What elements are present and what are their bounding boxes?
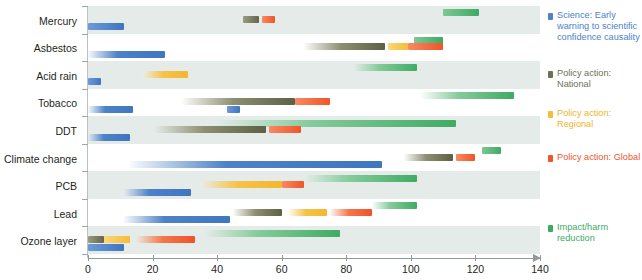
legend-swatch-regional-icon (548, 111, 553, 118)
bar-science (88, 78, 101, 85)
legend-swatch-science-icon (548, 13, 553, 20)
y-label-ddt: DDT (0, 125, 83, 137)
x-axis-tick-label: 120 (458, 263, 492, 275)
y-label-mercury: Mercury (0, 15, 83, 27)
x-axis-tick-label: 80 (329, 263, 363, 275)
x-axis-tick (475, 255, 476, 261)
bar-national (404, 154, 452, 161)
x-axis-tick (346, 255, 347, 261)
legend-item-regional[interactable]: Policy action: Regional (548, 108, 642, 130)
legend-swatch-impact-icon (548, 225, 553, 232)
legend-label-regional: Policy action: Regional (557, 108, 642, 130)
bar-global (408, 43, 444, 50)
bar-impact (353, 64, 418, 71)
y-label-lead: Lead (0, 208, 83, 220)
bar-national (233, 209, 281, 216)
bar-global (136, 236, 194, 243)
bar-science (124, 189, 192, 196)
bar-science (88, 51, 165, 58)
bar-national (243, 16, 259, 23)
legend-label-national: Policy action: National (557, 68, 642, 90)
x-axis-tick-label: 100 (394, 263, 428, 275)
x-axis-tick-label: 20 (136, 263, 170, 275)
bar-global (282, 181, 305, 188)
y-label-tobacco: Tobacco (0, 97, 83, 109)
y-label-pcb: PCB (0, 180, 83, 192)
legend-label-global: Policy action: Global (557, 152, 640, 163)
x-axis-line (88, 258, 540, 259)
plot-area (88, 6, 540, 254)
bar-impact (204, 230, 340, 237)
x-axis-tick-label: 60 (265, 263, 299, 275)
bar-global (295, 98, 331, 105)
bar-national (304, 43, 385, 50)
x-axis-tick-label: 40 (200, 263, 234, 275)
bar-science (130, 161, 382, 168)
x-axis-tick-label: 0 (71, 263, 105, 275)
legend-label-science: Science: Early warning to scientific con… (557, 10, 642, 43)
bar-regional (143, 71, 188, 78)
bar-science (88, 134, 130, 141)
legend-item-impact[interactable]: Impact/harm reduction (548, 222, 642, 244)
x-axis-tick (88, 255, 89, 261)
bar-regional (201, 181, 282, 188)
horizontal-range-chart: Mercury Asbestos Acid rain Tobacco DDT C… (0, 0, 642, 280)
bar-science (88, 244, 124, 251)
bar-impact (421, 92, 515, 99)
y-axis-labels: Mercury Asbestos Acid rain Tobacco DDT C… (0, 0, 83, 252)
x-axis-tick (411, 255, 412, 261)
bar-global (269, 126, 301, 133)
bar-impact (372, 202, 417, 209)
bar-regional (388, 43, 407, 50)
bar-global (330, 209, 372, 216)
bar-national (88, 236, 104, 243)
y-label-asbestos: Asbestos (0, 42, 83, 54)
y-label-acid-rain: Acid rain (0, 70, 83, 82)
bar-national (182, 98, 295, 105)
y-label-climate-change: Climate change (0, 153, 83, 165)
bar-national (153, 126, 266, 133)
bar-impact (443, 9, 479, 16)
bar-regional (288, 209, 327, 216)
x-axis-tick (540, 255, 541, 261)
bar-science (88, 23, 124, 30)
bar-impact (482, 147, 501, 154)
bar-science (124, 216, 231, 223)
legend-swatch-global-icon (548, 155, 553, 162)
bar-impact (304, 175, 417, 182)
bar-global (456, 154, 475, 161)
legend-item-science[interactable]: Science: Early warning to scientific con… (548, 10, 642, 43)
legend-item-global[interactable]: Policy action: Global (548, 152, 642, 163)
bar-regional (104, 236, 130, 243)
legend: Science: Early warning to scientific con… (548, 0, 642, 280)
x-axis-tick (153, 255, 154, 261)
legend-label-impact: Impact/harm reduction (557, 222, 642, 244)
x-axis-tick (217, 255, 218, 261)
y-label-ozone-layer: Ozone layer (0, 235, 83, 247)
bar-global (262, 16, 275, 23)
x-axis-tick (282, 255, 283, 261)
legend-item-national[interactable]: Policy action: National (548, 68, 642, 90)
bar-science (88, 106, 133, 113)
legend-swatch-national-icon (548, 71, 553, 78)
bar-science (227, 106, 240, 113)
